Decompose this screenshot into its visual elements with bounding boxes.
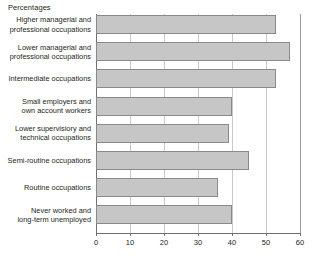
bar [96, 124, 229, 143]
tick-mark-50 [266, 233, 267, 236]
tick-mark-40 [232, 233, 233, 236]
bar [96, 178, 218, 197]
chart-title: Percentages [8, 3, 51, 12]
category-label: Lower managerial and professional occupa… [0, 43, 91, 61]
bar-row [96, 124, 229, 143]
bar [96, 42, 290, 61]
bar [96, 69, 276, 88]
bar-row [96, 178, 218, 197]
tick-mark-0 [96, 233, 97, 236]
bar [96, 15, 276, 34]
tick-mark-60 [300, 233, 301, 236]
category-label: Never worked and long-term unemployed [0, 206, 91, 224]
category-label: Semi-routine occupations [0, 156, 91, 165]
bar-row [96, 205, 232, 224]
category-label: Higher managerial and professional occup… [0, 15, 91, 33]
tick-label-60: 60 [296, 238, 304, 247]
category-label: Routine occupations [0, 183, 91, 192]
bar-row [96, 97, 232, 116]
bar [96, 151, 249, 170]
bar-row [96, 42, 290, 61]
tick-label-50: 50 [262, 238, 270, 247]
tick-label-40: 40 [228, 238, 236, 247]
bar [96, 97, 232, 116]
tick-mark-30 [198, 233, 199, 236]
tick-label-0: 0 [94, 238, 98, 247]
gridline-60 [300, 14, 301, 233]
bar [96, 205, 232, 224]
tick-mark-20 [164, 233, 165, 236]
tick-label-30: 30 [194, 238, 202, 247]
bar-row [96, 151, 249, 170]
category-label: Intermediate occupations [0, 74, 91, 83]
bar-chart: Percentages 0102030405060 Higher manager… [0, 0, 316, 258]
bar-row [96, 15, 276, 34]
tick-label-20: 20 [160, 238, 168, 247]
tick-mark-10 [130, 233, 131, 236]
bar-row [96, 69, 276, 88]
category-label: Small employers and own account workers [0, 97, 91, 115]
category-label: Lower supervisiory and technical occupat… [0, 124, 91, 142]
tick-label-10: 10 [126, 238, 134, 247]
